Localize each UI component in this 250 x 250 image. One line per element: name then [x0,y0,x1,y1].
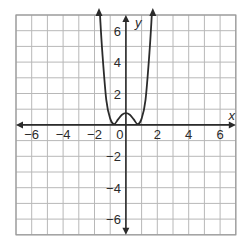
y-axis-arrow-down-icon [122,228,129,235]
x-tick-label: −4 [56,127,71,142]
x-tick-label: 6 [216,127,223,142]
y-axis-arrow-up-icon [122,15,129,22]
x-axis-label: x [228,108,236,123]
y-tick-label: −2 [106,149,121,164]
y-tick-label: 4 [114,55,121,70]
x-tick-label: 4 [185,127,192,142]
function-graph: −6−4−20246−6−4−2246 x y [0,0,250,250]
x-tick-label: −6 [24,127,39,142]
x-tick-label: 0 [116,127,123,142]
arrow-up-right-icon [149,8,156,16]
y-tick-label: −4 [106,181,121,196]
arrow-up-left-icon [95,8,102,16]
y-tick-label: 6 [114,24,121,39]
axes [16,15,236,235]
x-tick-label: −2 [87,127,102,142]
x-tick-label: 2 [154,127,161,142]
x-axis-arrow-left-icon [16,121,23,128]
y-tick-label: 2 [114,87,121,102]
y-tick-label: −6 [106,212,121,227]
